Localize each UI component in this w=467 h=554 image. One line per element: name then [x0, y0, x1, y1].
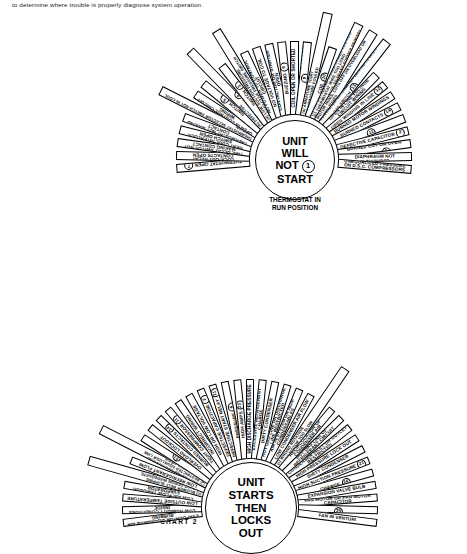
hub-line: NOT1 [275, 159, 314, 173]
segment-number: 2 [199, 393, 211, 405]
segment-number: 21 [235, 400, 245, 410]
segment-number: 11 [171, 413, 184, 426]
hub-line: START [277, 173, 313, 185]
hub-line: WILL [282, 147, 309, 159]
segment-number: 12 [372, 84, 385, 97]
chart-1: UNIT WILL NOT1 START THERMOSTAT IN RUN P… [0, 0, 467, 240]
segment-number: 14 [163, 422, 176, 435]
segment-label: UNEQUALIZED PRESSURE ON D.S.C. COMPRESSO… [338, 159, 411, 173]
hub-line: UNIT [238, 476, 265, 489]
chart-1-hub: UNIT WILL NOT1 START [255, 120, 335, 200]
chart-2: UNIT STARTS THEN LOCKS OUT CHART 2 EVAPO… [0, 250, 467, 544]
chart-2-hub: UNIT STARTS THEN LOCKS OUT [205, 462, 297, 554]
segment-number: 7 [184, 160, 194, 170]
hub-line: LOCKS [231, 514, 271, 527]
hub-line: THEN [235, 502, 266, 515]
segment-number: 8 [279, 62, 289, 72]
hub-line: STARTS [228, 489, 273, 502]
chart-1-caption: THERMOSTAT IN RUN POSITION [262, 196, 328, 211]
hub-line: UNIT [282, 135, 308, 147]
segment-number: 2 [395, 127, 406, 138]
segment-number: 14 [382, 106, 394, 118]
segment-number: 21 [356, 458, 368, 470]
segment-box: UNEQUALIZED PRESSURE ON D.S.C. COMPRESSO… [337, 159, 411, 173]
segment-number: 11 [210, 387, 221, 398]
hub-line: OUT [239, 527, 263, 540]
hub-badge: 1 [302, 160, 315, 173]
